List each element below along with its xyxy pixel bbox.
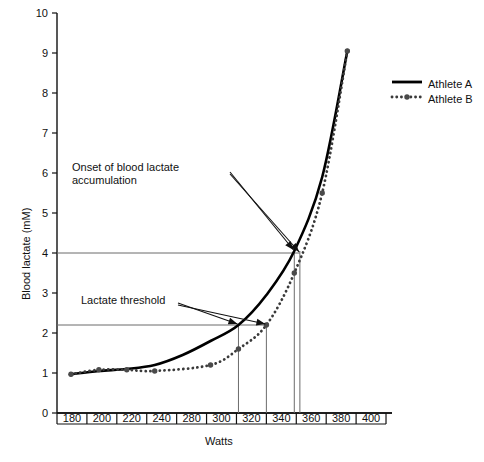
series-marker [208,362,213,367]
y-tick-label: 2 [42,327,48,339]
series-marker [96,367,101,372]
legend-marker-athlete-b [404,94,409,99]
series-marker [124,367,129,372]
obla-leader-b [230,174,299,252]
series-marker [345,48,350,53]
x-tick-label: 300 [212,412,230,424]
annotation-leader-lines [178,172,299,325]
x-tick-label: 380 [332,412,350,424]
data-series [68,48,350,377]
y-tick-label: 6 [42,167,48,179]
tick-labels: 0123456789101802002202402803003203403603… [36,7,380,424]
blood-lactate-chart: Blood lactate (mM) Watts Onset of blood … [0,0,484,462]
y-tick-label: 0 [42,407,48,419]
series-marker [320,190,325,195]
series-marker [236,346,241,351]
axes [52,13,392,424]
y-tick-label: 4 [42,247,48,259]
y-tick-label: 3 [42,287,48,299]
y-tick-label: 10 [36,7,48,19]
y-tick-label: 8 [42,87,48,99]
lt-leader-b [178,305,265,324]
y-tick-label: 7 [42,127,48,139]
x-tick-label: 340 [272,412,290,424]
x-tick-label: 280 [182,412,200,424]
series-marker [68,372,73,377]
x-tick-label: 220 [123,412,141,424]
reference-lines [57,251,300,413]
obla-leader-a [230,172,294,250]
chart-canvas: 0123456789101802002202402803003203403603… [0,0,484,462]
x-tick-label: 400 [362,412,380,424]
y-tick-label: 1 [42,367,48,379]
x-tick-label: 240 [153,412,171,424]
obla-leader-a-head [285,241,293,250]
series-line-athlete-a [71,51,347,374]
legend-swatches [392,82,422,100]
lt-leader-a [178,303,237,324]
x-tick-label: 200 [93,412,111,424]
series-marker [292,270,297,275]
series-marker [264,322,269,327]
x-tick-label: 180 [63,412,81,424]
x-tick-label: 360 [302,412,320,424]
series-line-athlete-b [71,51,347,374]
y-tick-label: 5 [42,207,48,219]
lt-leader-a-head [228,318,238,324]
x-tick-label: 320 [242,412,260,424]
y-tick-label: 9 [42,47,48,59]
series-marker [152,368,157,373]
